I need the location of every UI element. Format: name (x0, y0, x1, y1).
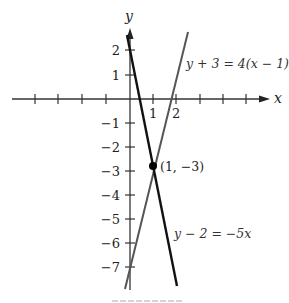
y-tick-label-neg4: −4 (101, 188, 120, 203)
y-tick-label-neg3: −3 (101, 164, 120, 179)
intersection-label: (1, −3) (160, 159, 204, 174)
y-tick-label-neg6: −6 (101, 236, 120, 251)
y-tick-label-neg7: −7 (101, 260, 120, 275)
equation-label-line-a: y + 3 = 4(x − 1) (185, 56, 289, 71)
y-tick-label-2: 2 (112, 43, 120, 58)
coordinate-plane: x y 1 2 2 (0, 0, 289, 303)
intersection-point (149, 162, 157, 170)
y-axis-label: y (124, 8, 134, 24)
y-tick-label-neg2: −2 (101, 140, 120, 155)
y-tick-label-neg1: −1 (101, 116, 120, 131)
equation-label-line-b: y − 2 = −5x (173, 226, 251, 241)
y-tick-label-neg5: −5 (101, 212, 120, 227)
y-tick-label-1: 1 (112, 68, 120, 83)
graph-figure: x y 1 2 2 (0, 0, 289, 303)
x-axis-label: x (274, 90, 282, 106)
x-axis-arrow-icon (259, 96, 270, 103)
x-tick-label-1: 1 (149, 106, 157, 121)
x-tick-label-2: 2 (172, 106, 180, 121)
